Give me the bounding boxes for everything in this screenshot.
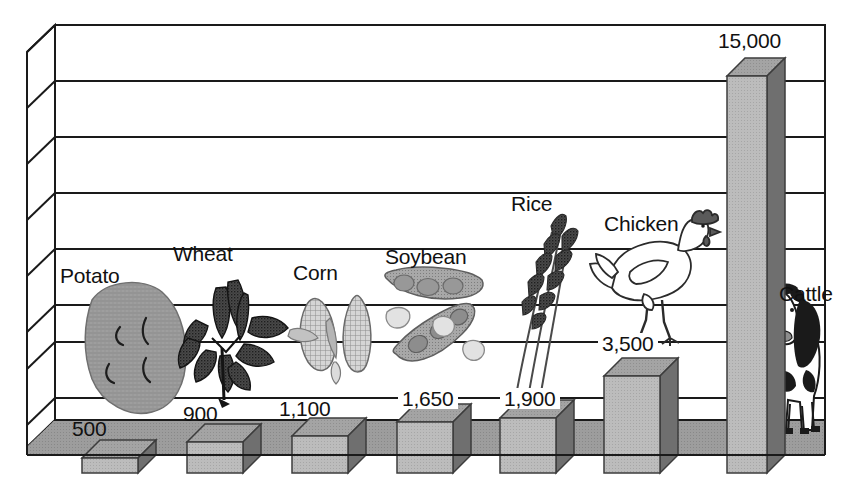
bar-rice[interactable]	[500, 400, 574, 473]
bar-corn[interactable]	[292, 418, 366, 473]
potato-icon	[85, 283, 186, 414]
category-label-soybean: Soybean	[385, 246, 467, 267]
value-label-potato: 500	[72, 418, 106, 439]
water-footprint-bar-chart: Potato Wheat Corn Soybean Rice Chicken C…	[0, 0, 852, 496]
category-label-corn: Corn	[293, 262, 338, 283]
category-label-wheat: Wheat	[173, 243, 233, 264]
category-label-rice: Rice	[511, 193, 552, 214]
value-label-soybean: 1,650	[398, 388, 458, 409]
bar-wheat[interactable]	[187, 424, 261, 473]
bar-soybean[interactable]	[397, 404, 471, 473]
value-label-chicken: 3,500	[598, 333, 658, 354]
category-label-potato: Potato	[60, 265, 120, 286]
category-label-chicken: Chicken	[604, 213, 678, 234]
value-label-cattle: 15,000	[714, 30, 785, 51]
bar-cattle[interactable]	[727, 58, 785, 473]
chart-side-wall	[27, 25, 55, 447]
value-label-wheat: 900	[183, 403, 217, 424]
value-label-rice: 1,900	[500, 388, 560, 409]
value-label-corn: 1,100	[279, 398, 331, 419]
category-label-cattle: Cattle	[779, 283, 833, 304]
